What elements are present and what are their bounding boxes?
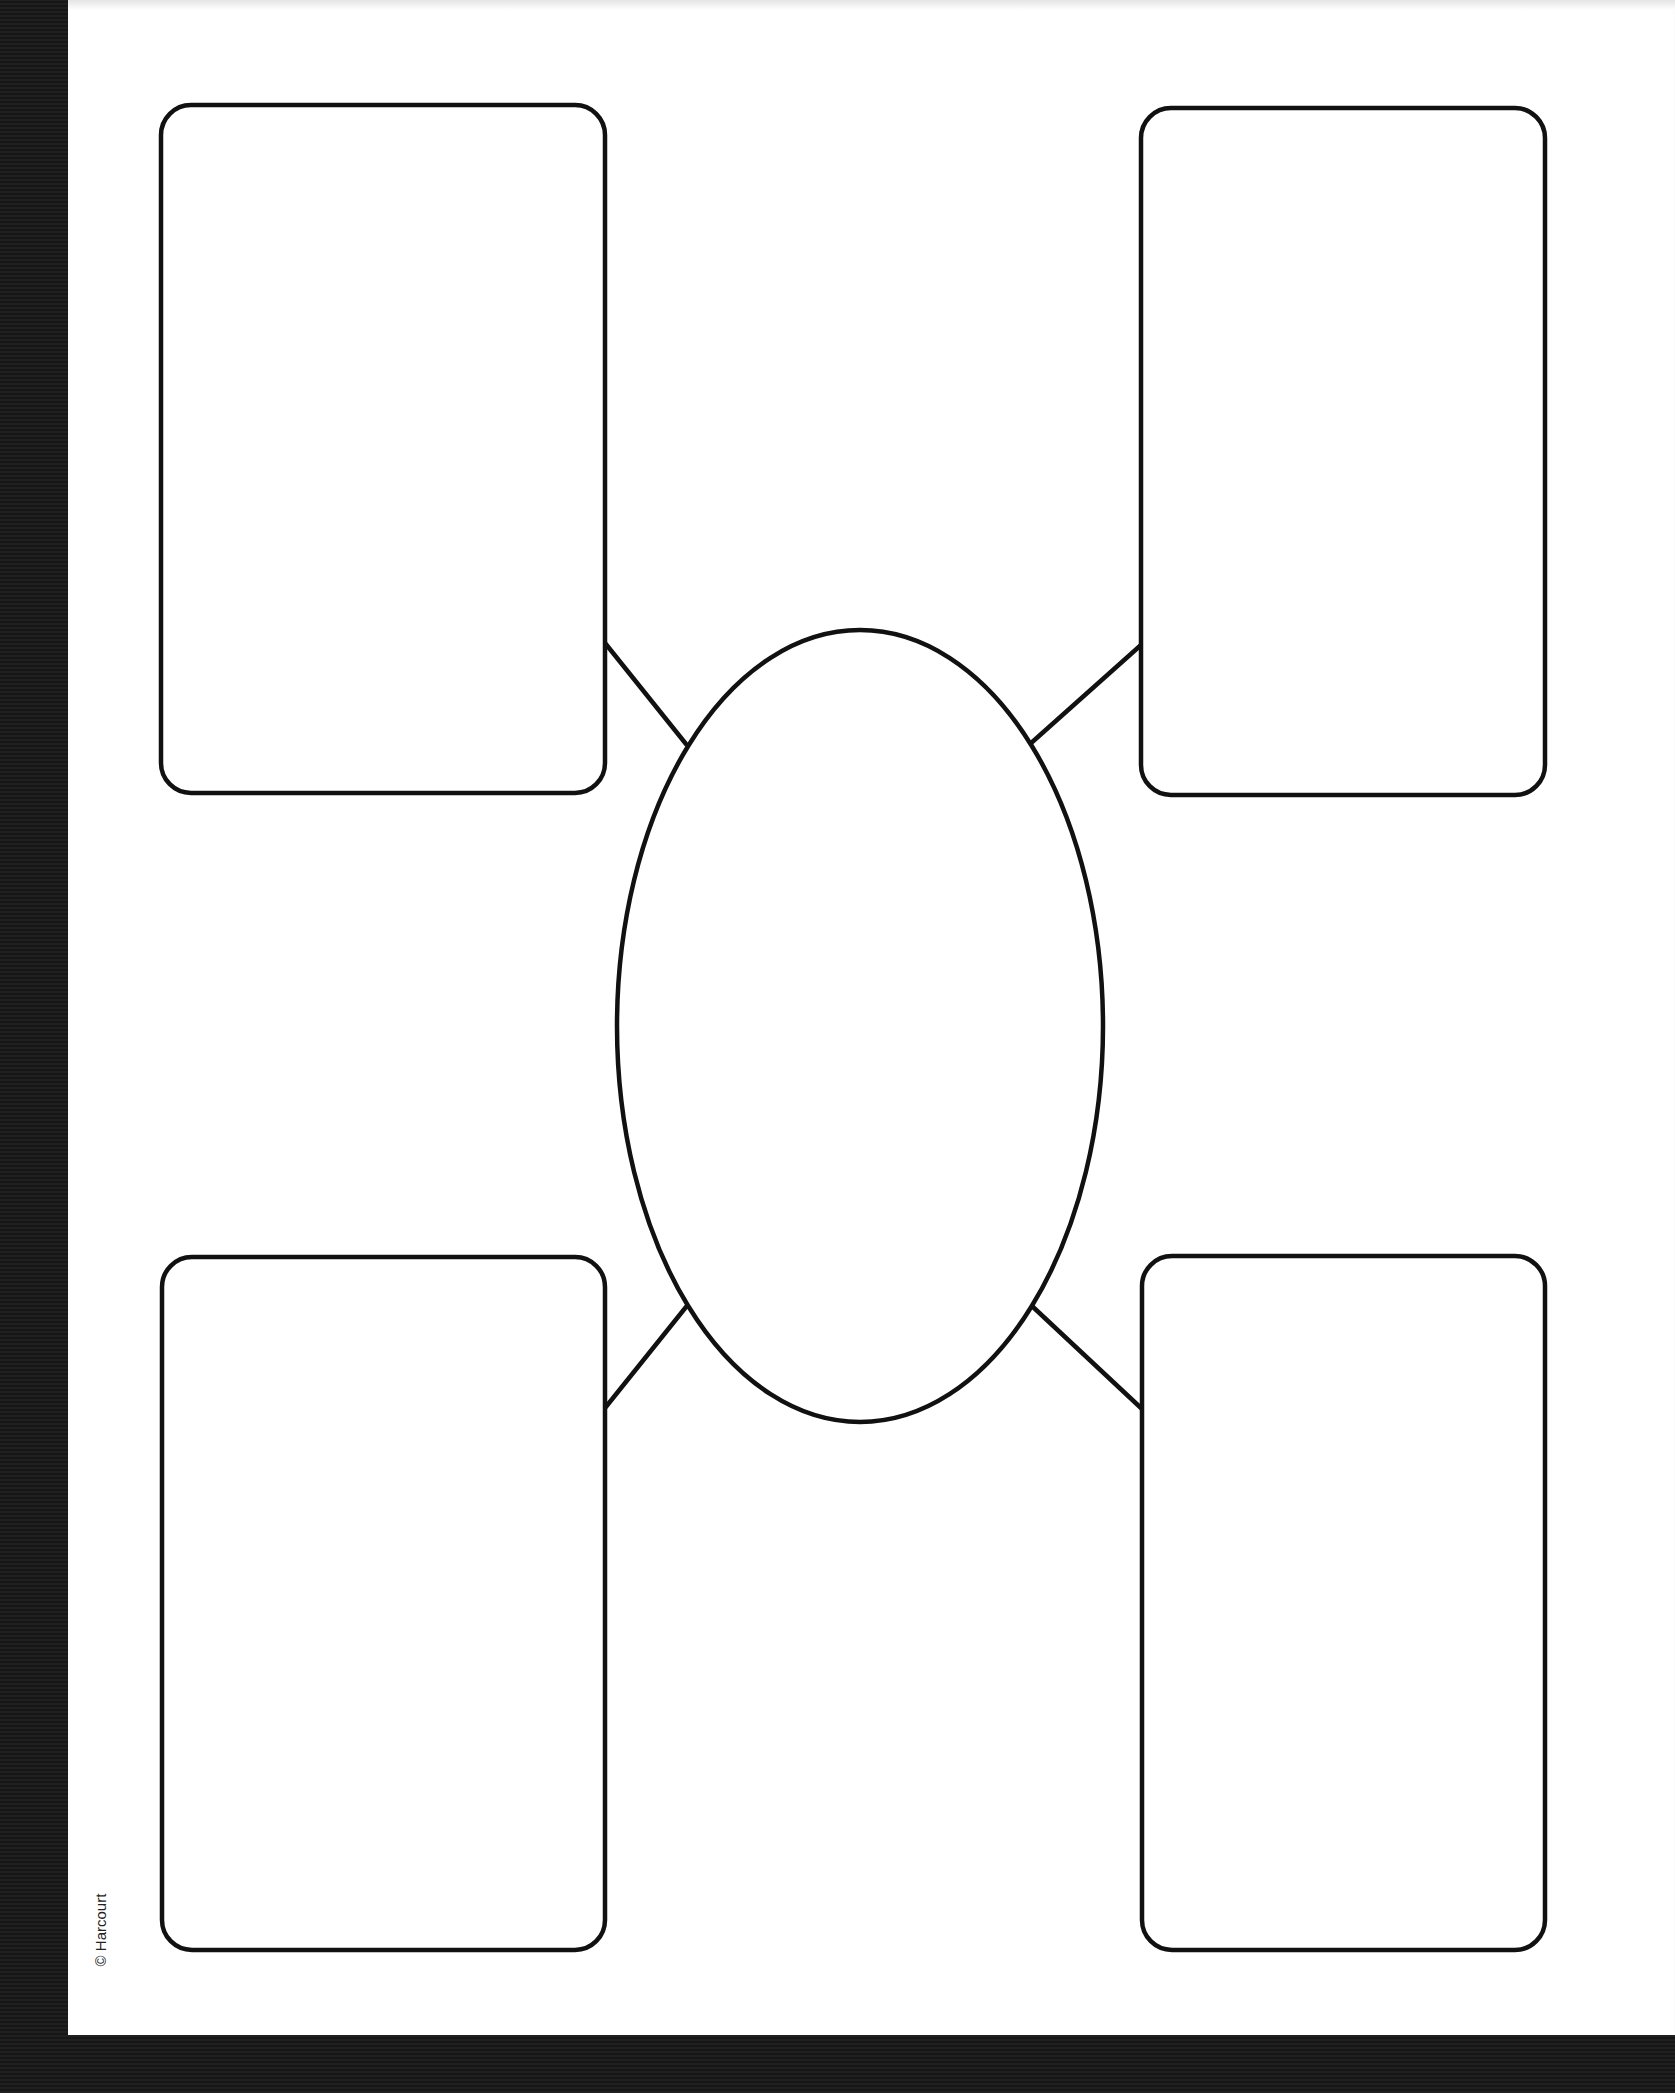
connector-top-right	[1030, 645, 1141, 744]
box-top-right[interactable]	[1141, 108, 1545, 795]
box-top-left[interactable]	[161, 105, 605, 793]
connector-bottom-left	[605, 1307, 686, 1408]
graphic-organizer	[0, 0, 1675, 2093]
connector-bottom-right	[1033, 1307, 1141, 1408]
connector-top-left	[605, 643, 686, 744]
copyright-notice: © Harcourt	[92, 1894, 109, 1967]
box-bottom-left[interactable]	[162, 1257, 605, 1950]
center-oval[interactable]	[617, 630, 1103, 1422]
box-bottom-right[interactable]	[1142, 1256, 1545, 1950]
